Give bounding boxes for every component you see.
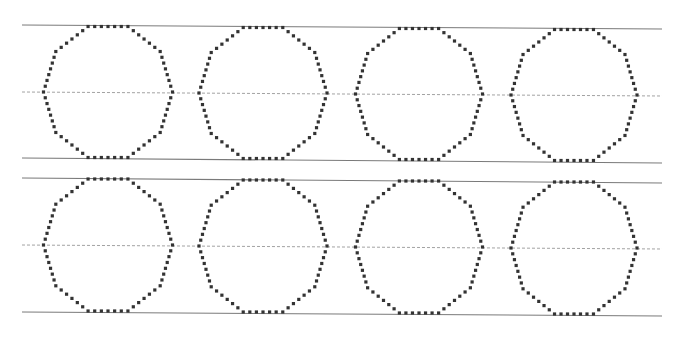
dotted-decagon-2-1 [42, 177, 174, 312]
worksheet-canvas [0, 0, 680, 338]
row-2-mid-dashed-line [22, 245, 662, 249]
row-1-mid-dashed-line [22, 92, 662, 96]
tracing-worksheet [0, 0, 680, 338]
dotted-decagon-1-1 [42, 25, 174, 159]
